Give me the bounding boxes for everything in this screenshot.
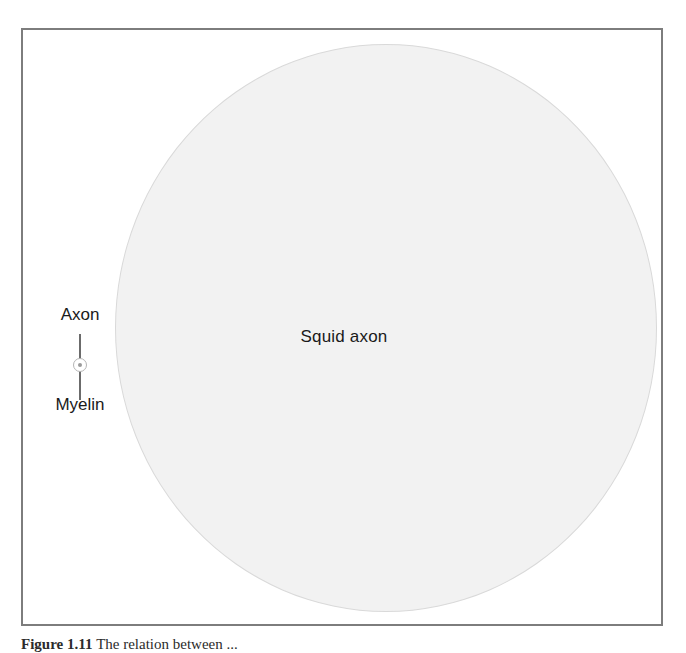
figure-frame: Squid axon Axon Myelin bbox=[21, 28, 663, 626]
myelin-sheath-ring bbox=[73, 358, 87, 372]
figure-caption: Figure 1.11 The relation between ... bbox=[21, 636, 671, 653]
axon-label: Axon bbox=[33, 305, 127, 325]
myelin-label: Myelin bbox=[33, 395, 127, 415]
figure-caption-text: The relation between ... bbox=[96, 636, 238, 652]
squid-axon-cross-section bbox=[115, 44, 657, 612]
myelinated-axon-callout: Axon Myelin bbox=[33, 305, 143, 435]
axon-core-dot bbox=[78, 363, 82, 367]
figure-caption-number: Figure 1.11 bbox=[21, 636, 92, 652]
